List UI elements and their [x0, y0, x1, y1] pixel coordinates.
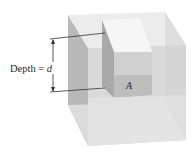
area-a-face	[114, 75, 152, 98]
cube-front-lower	[88, 95, 186, 146]
arrow-down-icon	[51, 87, 55, 92]
arrow-up-icon	[51, 39, 55, 44]
column-back-wall	[114, 52, 152, 75]
area-label: A	[125, 80, 133, 91]
cube-depth-diagram: Depth = d A	[0, 0, 194, 158]
depth-label: Depth = d	[10, 63, 53, 74]
